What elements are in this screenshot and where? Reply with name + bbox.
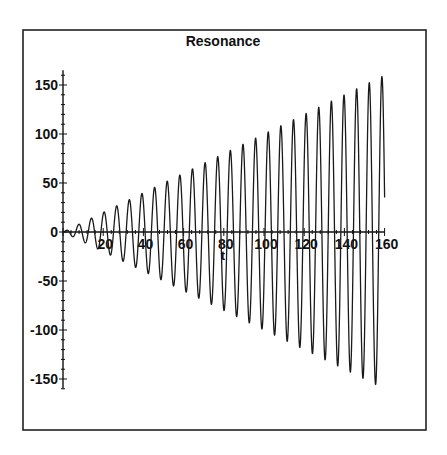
y-tick-label: -100 <box>30 322 58 338</box>
y-tick-label: -150 <box>30 371 58 387</box>
y-tick-label: 100 <box>35 126 59 142</box>
y-tick-label: 50 <box>42 175 58 191</box>
x-tick-label: 120 <box>295 236 319 252</box>
y-tick-label: 150 <box>35 77 59 93</box>
resonance-chart: Resonance 150100500-50-100-1502040608010… <box>0 0 447 455</box>
x-tick-label: 60 <box>178 236 194 252</box>
x-tick-label: 140 <box>335 236 359 252</box>
chart-title: Resonance <box>186 33 261 49</box>
y-tick-label: 0 <box>50 224 58 240</box>
x-tick-label: 100 <box>254 236 278 252</box>
y-tick-label: -50 <box>38 273 58 289</box>
x-axis-label: t <box>221 248 226 263</box>
